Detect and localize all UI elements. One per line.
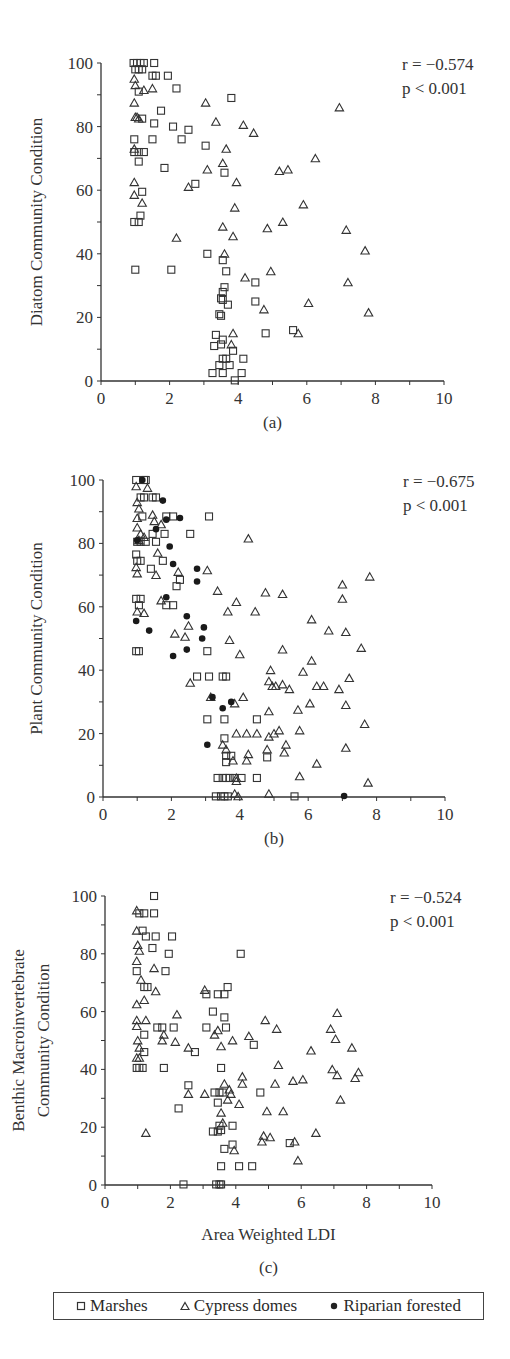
data-point <box>194 673 201 680</box>
data-point <box>184 1044 192 1051</box>
data-point <box>170 1024 177 1031</box>
legend: Marshes Cypress domes Riparian forested <box>53 1292 484 1320</box>
data-point <box>235 1100 243 1107</box>
x-tick-label: 6 <box>304 805 313 824</box>
data-point <box>177 515 184 522</box>
data-point <box>253 716 260 723</box>
data-point <box>361 247 369 254</box>
data-point <box>229 329 237 336</box>
data-point <box>236 650 244 657</box>
data-point <box>257 1089 264 1096</box>
x-tick-label: 8 <box>372 805 381 824</box>
stats-annotation: p < 0.001 <box>402 79 467 98</box>
data-point <box>295 772 303 779</box>
data-point <box>252 298 259 305</box>
data-point <box>131 136 138 143</box>
data-point <box>173 85 180 92</box>
data-point <box>250 1041 257 1048</box>
data-point <box>185 126 192 133</box>
x-tick-label: 2 <box>167 805 176 824</box>
data-point <box>220 250 228 257</box>
data-point <box>162 968 169 975</box>
data-point <box>173 1010 181 1017</box>
data-point <box>161 530 168 537</box>
data-point <box>222 1024 229 1031</box>
x-tick-label: 10 <box>436 389 453 408</box>
data-point <box>133 957 141 964</box>
data-point <box>336 1096 344 1103</box>
data-point <box>199 635 206 642</box>
data-point <box>263 1107 271 1114</box>
data-point <box>130 75 138 82</box>
data-point <box>194 578 201 585</box>
data-point <box>150 964 158 971</box>
data-point <box>231 204 239 211</box>
y-tick-label: 100 <box>72 887 98 906</box>
series-marshes <box>133 893 293 1188</box>
data-point <box>142 1129 150 1136</box>
data-point <box>263 224 271 231</box>
y-tick-label: 20 <box>78 725 95 744</box>
data-point <box>204 741 211 748</box>
data-point <box>170 513 177 520</box>
data-point <box>227 340 235 347</box>
data-point <box>175 1105 182 1112</box>
data-point <box>312 1129 320 1136</box>
stats-annotation: r = −0.524 <box>390 888 462 907</box>
data-point <box>149 945 156 952</box>
data-point <box>267 267 275 274</box>
data-point <box>140 149 147 156</box>
data-point <box>148 511 156 518</box>
panel-label: (b) <box>264 829 284 848</box>
data-point <box>201 99 209 106</box>
data-point <box>187 530 194 537</box>
data-point <box>211 343 218 350</box>
circle-filled-marker-icon <box>329 1301 339 1311</box>
data-point <box>185 1082 192 1089</box>
data-point <box>203 991 210 998</box>
data-point <box>209 1128 216 1135</box>
data-point <box>166 543 173 550</box>
data-point <box>344 278 352 285</box>
data-point <box>191 1049 198 1056</box>
data-point <box>138 199 146 206</box>
data-point <box>133 514 141 521</box>
data-point <box>163 516 170 523</box>
data-point <box>134 537 141 544</box>
data-point <box>140 609 148 616</box>
data-point <box>163 602 170 609</box>
data-point <box>331 1035 339 1042</box>
data-point <box>221 169 228 176</box>
data-point <box>221 991 228 998</box>
x-tick-label: 2 <box>166 1193 175 1212</box>
data-point <box>290 1138 298 1145</box>
y-tick-label: 100 <box>68 54 94 73</box>
x-tick-label: 6 <box>303 389 312 408</box>
scatter-figure: 0246810020406080100Diatom Community Cond… <box>0 0 510 1359</box>
data-point <box>134 941 142 948</box>
data-point <box>148 84 156 91</box>
legend-item-riparian-forested: Riparian forested <box>329 1296 461 1316</box>
data-point <box>299 201 307 208</box>
data-point <box>130 191 138 198</box>
data-point <box>307 615 315 622</box>
data-point <box>130 178 138 185</box>
stats-annotation: p < 0.001 <box>403 496 468 515</box>
data-point <box>357 644 365 651</box>
data-point <box>264 754 271 761</box>
y-tick-label: 0 <box>87 788 96 807</box>
data-point <box>203 566 211 573</box>
data-point <box>274 1061 282 1068</box>
data-point <box>135 158 142 165</box>
data-point <box>284 166 292 173</box>
data-point <box>222 145 230 152</box>
data-point <box>201 624 208 631</box>
data-point <box>342 226 350 233</box>
data-point <box>249 129 257 136</box>
data-point <box>279 218 287 225</box>
data-point <box>143 484 151 491</box>
data-point <box>265 790 273 797</box>
series-riparian-forested <box>133 477 348 800</box>
data-point <box>149 136 156 143</box>
data-point <box>311 154 319 161</box>
